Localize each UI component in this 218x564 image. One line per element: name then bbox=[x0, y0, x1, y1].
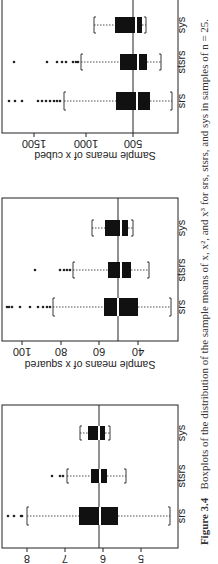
category-label-sys: sys bbox=[175, 16, 187, 33]
y-tick-40: 40 bbox=[132, 346, 144, 358]
plot-frame bbox=[2, 198, 178, 341]
y-tick-100: 100 bbox=[13, 346, 31, 358]
box-srs bbox=[6, 298, 171, 316]
y-tick-7: 7 bbox=[62, 553, 68, 564]
y-tick-1000: 1000 bbox=[74, 138, 98, 150]
figure-caption: Figure 3.4 Boxplots of the distribution … bbox=[190, 0, 218, 564]
box-sys bbox=[80, 426, 110, 440]
category-label-stsrs: stsrs bbox=[175, 50, 187, 74]
category-label-srs: srs bbox=[175, 299, 187, 314]
category-label-srs: srs bbox=[175, 508, 187, 523]
y-tick-60: 60 bbox=[93, 346, 105, 358]
box-stsrs bbox=[34, 262, 149, 278]
category-label-stsrs: stsrs bbox=[175, 258, 187, 282]
caption-text: Boxplots of the distribution of the samp… bbox=[198, 19, 210, 489]
box-srs bbox=[8, 92, 172, 110]
box-sys bbox=[94, 17, 146, 33]
category-label-sys: sys bbox=[175, 424, 187, 441]
category-label-sys: sys bbox=[175, 219, 187, 236]
box-stsrs bbox=[51, 469, 126, 483]
plot-frame bbox=[2, 0, 178, 133]
panel-x-cubed: sys stsrs srs 500 1000 1500 Sample means… bbox=[2, 0, 187, 162]
y-tick-5: 5 bbox=[138, 553, 144, 564]
panel-x: sys stsrs srs 5 6 7 8 bbox=[2, 405, 187, 564]
box-sys bbox=[92, 220, 133, 236]
figure-number: Figure 3.4 bbox=[198, 498, 210, 545]
box-srs bbox=[7, 507, 170, 525]
box-stsrs bbox=[13, 54, 161, 70]
y-tick-8: 8 bbox=[24, 553, 30, 564]
panel-x-squared: sys stsrs srs 40 60 80 100 Sample means … bbox=[2, 198, 187, 371]
y-tick-1500: 1500 bbox=[22, 138, 46, 150]
y-axis-label: Sample means of x squared bbox=[24, 359, 155, 371]
y-tick-500: 500 bbox=[124, 138, 142, 150]
y-tick-80: 80 bbox=[55, 346, 67, 358]
category-label-stsrs: stsrs bbox=[175, 464, 187, 488]
y-tick-6: 6 bbox=[100, 553, 106, 564]
category-label-srs: srs bbox=[175, 93, 187, 108]
boxplot-figure: .frame { fill:none; stroke:#222; stroke-… bbox=[0, 0, 218, 564]
y-axis-label: Sample means of x cubed bbox=[34, 150, 156, 162]
